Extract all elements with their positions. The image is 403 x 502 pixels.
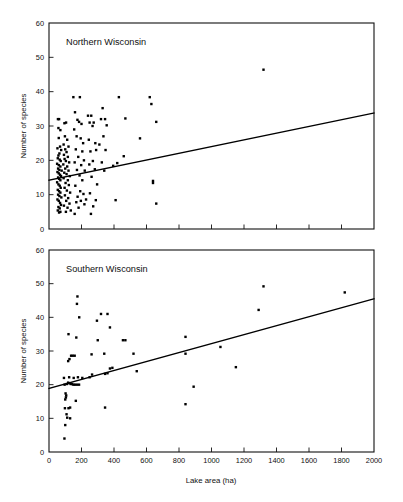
data-point: [63, 187, 65, 189]
data-point: [103, 169, 105, 171]
panel-title-northern: Northern Wisconsin: [66, 37, 146, 47]
data-point: [80, 164, 82, 166]
data-point: [58, 118, 60, 120]
data-point: [75, 201, 77, 203]
figure-container: 0102030405060 Northern Wisconsin Number …: [0, 0, 403, 502]
data-point: [94, 142, 96, 144]
y-tick-label: 0: [40, 225, 44, 234]
data-point: [63, 171, 65, 173]
data-point: [89, 192, 91, 194]
x-tick-label: 0: [47, 456, 51, 465]
data-point: [58, 211, 60, 213]
data-point: [262, 68, 264, 70]
data-point: [74, 111, 76, 113]
data-point: [155, 202, 157, 204]
y-axis-label-bottom: Number of species: [19, 318, 28, 383]
data-point: [65, 413, 67, 415]
data-point: [73, 377, 75, 379]
data-point: [76, 169, 78, 171]
data-point: [81, 150, 83, 152]
data-point: [67, 156, 69, 158]
data-point: [56, 147, 58, 149]
y-tick-label: 10: [36, 190, 44, 199]
data-point: [88, 163, 90, 165]
y-tick-label: 50: [36, 53, 44, 62]
data-point: [87, 115, 89, 117]
data-point: [59, 207, 61, 209]
data-point: [64, 194, 66, 196]
data-point: [139, 137, 141, 139]
y-tick-label: 60: [36, 19, 44, 28]
data-point: [78, 121, 80, 123]
data-point: [82, 142, 84, 144]
data-point: [81, 179, 83, 181]
data-point: [64, 424, 66, 426]
data-point: [65, 173, 67, 175]
data-point: [89, 150, 91, 152]
x-tick-label: 1800: [333, 456, 349, 465]
data-point: [65, 160, 67, 162]
data-point: [68, 376, 70, 378]
data-point: [88, 139, 90, 141]
y-tick-label: 60: [36, 246, 44, 255]
data-point: [80, 200, 82, 202]
y-tick-label: 20: [36, 380, 44, 389]
y-tick-label: 30: [36, 122, 44, 131]
data-point: [184, 403, 186, 405]
data-point: [109, 326, 111, 328]
data-point: [78, 383, 80, 385]
data-point: [109, 367, 111, 369]
data-point: [60, 169, 62, 171]
data-point: [58, 169, 60, 171]
data-point: [64, 167, 66, 169]
data-point: [72, 96, 74, 98]
data-point: [90, 213, 92, 215]
data-point: [66, 165, 68, 167]
y-tick-label: 40: [36, 313, 44, 322]
data-point: [90, 176, 92, 178]
data-point: [96, 320, 98, 322]
data-point: [66, 139, 68, 141]
data-point: [105, 124, 107, 126]
data-point: [65, 200, 67, 202]
x-tick-label: 200: [75, 456, 87, 465]
data-point: [124, 339, 126, 341]
data-point: [67, 197, 69, 199]
data-point: [63, 154, 65, 156]
data-point: [69, 406, 71, 408]
data-point: [101, 161, 103, 163]
data-point: [149, 96, 151, 98]
data-point: [116, 162, 118, 164]
data-point: [114, 199, 116, 201]
x-tick-label: 1000: [203, 456, 219, 465]
data-point: [75, 336, 77, 338]
data-point: [79, 190, 81, 192]
data-point: [60, 196, 62, 198]
x-tick-label: 1400: [268, 456, 284, 465]
data-point: [91, 125, 93, 127]
data-point: [104, 149, 106, 151]
data-point: [78, 316, 80, 318]
data-point: [106, 313, 108, 315]
data-point: [92, 205, 94, 207]
data-point: [75, 148, 77, 150]
data-point: [59, 179, 61, 181]
data-point: [100, 313, 102, 315]
data-point: [83, 159, 85, 161]
data-point: [90, 353, 92, 355]
data-point: [92, 121, 94, 123]
data-point: [77, 207, 79, 209]
data-point: [76, 295, 78, 297]
data-point: [65, 121, 67, 123]
y-tick-label: 50: [36, 279, 44, 288]
data-point: [344, 291, 346, 293]
data-point: [68, 184, 70, 186]
data-point: [63, 437, 65, 439]
data-point: [67, 169, 69, 171]
data-point: [95, 149, 97, 151]
data-point: [69, 191, 71, 193]
x-tick-label: 1600: [301, 456, 317, 465]
data-point: [184, 352, 186, 354]
data-point: [68, 202, 70, 204]
data-point: [85, 198, 87, 200]
